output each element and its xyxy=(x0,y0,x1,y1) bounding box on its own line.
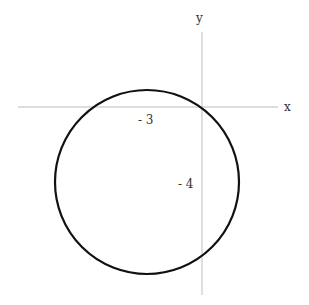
y-tick-label: - 4 xyxy=(178,177,194,191)
circle-plot: x y - 3 - 4 xyxy=(0,0,309,305)
x-axis-label: x xyxy=(284,100,291,114)
x-tick-label: - 3 xyxy=(138,113,154,127)
y-axis-label: y xyxy=(195,11,203,25)
